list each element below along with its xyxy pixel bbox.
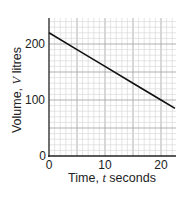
ytick-100: 100 (25, 93, 45, 107)
x-axis-label: Time, t seconds (68, 171, 156, 185)
xtick-20: 20 (154, 158, 168, 172)
y-axis-label: Volume, V litres (10, 47, 24, 133)
grid (49, 18, 176, 156)
xtick-10: 10 (98, 158, 112, 172)
ytick-200: 200 (25, 37, 45, 51)
xtick-0: 0 (46, 158, 53, 172)
axes (48, 18, 176, 157)
volume-time-chart: 200 100 0 0 10 20 Time, t seconds Volume… (0, 0, 182, 198)
